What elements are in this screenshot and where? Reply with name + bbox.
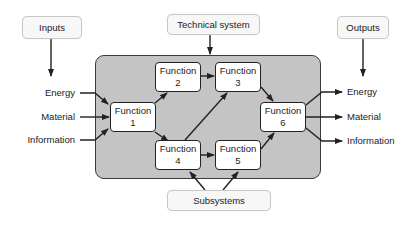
input-energy-label: Energy — [45, 87, 75, 98]
function-number: 5 — [235, 155, 240, 167]
function-number: 4 — [175, 155, 180, 167]
inputs-box: Inputs — [22, 16, 82, 39]
function-box-1: Function 1 — [110, 102, 156, 132]
input-information-label: Information — [27, 134, 75, 145]
function-number: 1 — [130, 117, 135, 129]
output-information-label: Information — [347, 135, 395, 146]
function-box-4: Function 4 — [155, 140, 201, 170]
subsystems-box: Subsystems — [167, 190, 271, 211]
input-material-label: Material — [41, 111, 75, 122]
function-box-2: Function 2 — [155, 62, 201, 92]
function-number: 2 — [175, 77, 180, 89]
function-box-3: Function 3 — [215, 62, 261, 92]
function-number: 3 — [235, 77, 240, 89]
output-material-label: Material — [347, 111, 381, 122]
function-label: Function — [220, 143, 256, 155]
function-label: Function — [265, 105, 301, 117]
function-box-6: Function 6 — [260, 102, 306, 132]
function-label: Function — [160, 65, 196, 77]
function-number: 6 — [280, 117, 285, 129]
technical-system-box: Technical system — [167, 14, 260, 35]
function-box-5: Function 5 — [215, 140, 261, 170]
output-energy-label: Energy — [347, 86, 377, 97]
function-label: Function — [160, 143, 196, 155]
function-label: Function — [115, 105, 151, 117]
outputs-box: Outputs — [337, 16, 389, 39]
function-label: Function — [220, 65, 256, 77]
